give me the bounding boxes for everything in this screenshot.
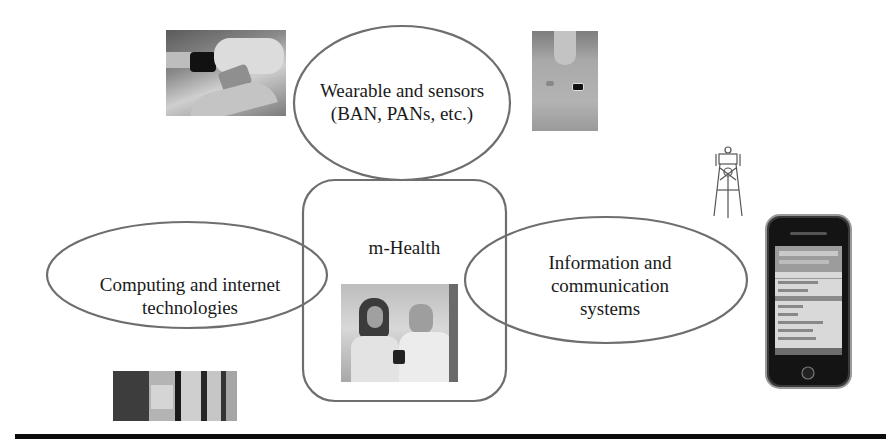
chest-sensor-photo	[532, 31, 598, 131]
mhealth-label: m-Health	[303, 236, 506, 259]
ict-label-line1: Information and	[520, 251, 700, 274]
mhealth-title: m-Health	[303, 236, 506, 259]
computing-label-line1: Computing and internet	[60, 273, 320, 296]
computing-label: Computing and internet technologies	[60, 273, 320, 319]
server-rack-photo	[113, 371, 237, 421]
wearable-label: Wearable and sensors (BAN, PANs, etc.)	[297, 79, 507, 125]
ict-label-line3: systems	[520, 297, 700, 320]
computing-label-line2: technologies	[60, 296, 320, 319]
cell-tower-icon	[714, 147, 742, 218]
doctors-with-mobile-device-photo	[341, 284, 458, 382]
mhealth-diagram: Wearable and sensors (BAN, PANs, etc.) m…	[0, 0, 893, 441]
wearable-label-line1: Wearable and sensors	[297, 79, 507, 102]
ict-label-line2: communication	[520, 274, 700, 297]
wearable-label-line2: (BAN, PANs, etc.)	[297, 102, 507, 125]
wrist-wearable-device-photo	[166, 30, 286, 116]
bottom-rule-divider	[15, 434, 886, 439]
smartphone-photo	[766, 215, 851, 388]
ict-label: Information and communication systems	[520, 251, 700, 320]
